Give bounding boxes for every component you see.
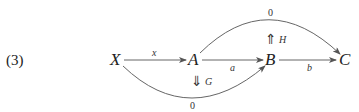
node-x: X (110, 51, 120, 68)
label-bottom-zero: 0 (190, 101, 195, 111)
double-arrow-up-icon: ⇑ (265, 32, 277, 46)
equation-number: (3) (6, 53, 24, 68)
label-top-zero: 0 (268, 8, 273, 18)
label-h: H (279, 35, 286, 45)
node-a: A (188, 51, 198, 68)
node-b: B (265, 51, 275, 68)
label-a: a (230, 63, 235, 73)
label-x: x (152, 48, 156, 58)
diagram-arrows (0, 0, 359, 112)
double-arrow-down-icon: ⇓ (191, 74, 203, 88)
node-c: C (339, 51, 350, 68)
label-g: G (205, 77, 212, 87)
label-b: b (307, 63, 312, 73)
